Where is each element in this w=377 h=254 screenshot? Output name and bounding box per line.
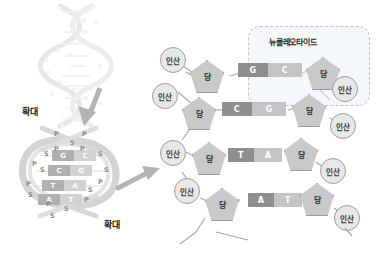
strand-tails	[0, 0, 377, 254]
figure-canvas: 확대 확대 G C C G T A A T P P S P P S P S P …	[0, 0, 377, 254]
